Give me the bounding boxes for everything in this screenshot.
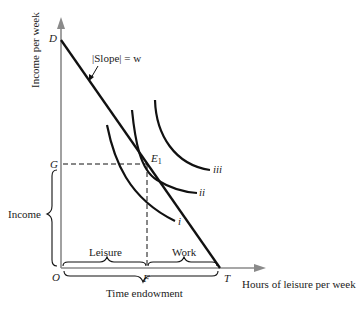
labor-leisure-diagram: Income per week Hours of leisure per wee… bbox=[0, 0, 363, 311]
work-label: Work bbox=[172, 246, 197, 258]
time-endowment-label: Time endowment bbox=[106, 287, 183, 299]
point-label-g: G bbox=[50, 158, 58, 170]
leisure-label: Leisure bbox=[89, 246, 122, 258]
indifference-curve-ii bbox=[132, 110, 197, 193]
point-label-d: D bbox=[48, 32, 57, 44]
curve-label-ii: ii bbox=[199, 186, 205, 198]
x-axis-arrow-icon bbox=[254, 264, 266, 272]
slope-label: |Slope| = w bbox=[92, 52, 141, 64]
curve-label-iii: iii bbox=[213, 163, 222, 175]
point-label-e1: E1 bbox=[150, 152, 162, 166]
axes bbox=[57, 17, 266, 272]
income-label: Income bbox=[8, 208, 41, 220]
y-axis-arrow-icon bbox=[57, 17, 65, 29]
income-brace bbox=[47, 170, 57, 266]
indifference-curve-iii bbox=[155, 100, 210, 170]
curve-label-i: i bbox=[178, 215, 181, 227]
point-label-t: T bbox=[224, 272, 231, 284]
point-label-o: O bbox=[52, 271, 60, 283]
work-brace bbox=[148, 257, 217, 266]
time-endowment-brace bbox=[64, 271, 218, 282]
y-axis-label: Income per week bbox=[29, 12, 41, 88]
x-axis-label: Hours of leisure per week bbox=[242, 278, 356, 290]
leisure-brace bbox=[63, 257, 146, 266]
